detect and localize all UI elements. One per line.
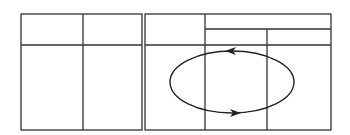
left-table-border — [21, 14, 142, 130]
cycle-loop — [170, 47, 294, 117]
left-table — [21, 14, 142, 130]
diagram-canvas — [0, 0, 350, 135]
cycle-ellipse — [170, 51, 294, 113]
